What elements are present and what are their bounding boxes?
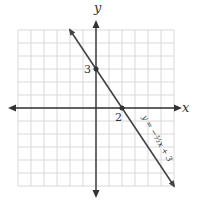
line-graph: x y 3 2 y = −³⁄₂x + 3 [0,0,207,203]
x-axis-label: x [182,100,190,115]
x-axis-arrow-left [8,105,16,112]
y-axis-arrow-down [93,190,100,198]
x-intercept-label: 2 [115,111,122,124]
axes [8,20,182,198]
y-axis-label: y [93,0,102,15]
data-point [120,106,125,111]
y-intercept-label: 3 [84,63,91,76]
equation-label: y = −³⁄₂x + 3 [140,113,174,164]
y-axis-arrow-up [93,20,100,28]
x-axis-arrow-right [174,105,182,112]
data-point [94,67,99,72]
